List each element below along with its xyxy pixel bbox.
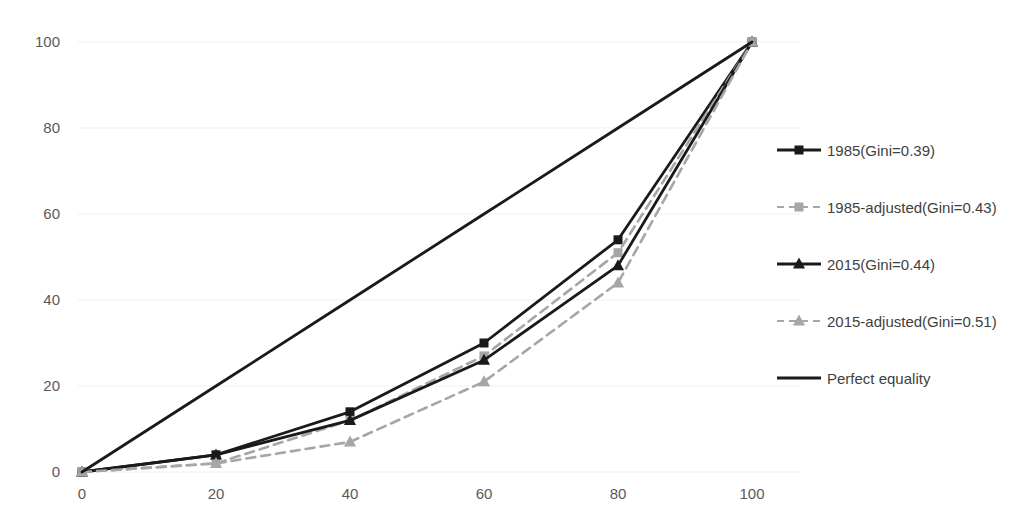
legend-label-2015-adjusted: 2015-adjusted(Gini=0.51) <box>827 313 997 330</box>
legend-label-2015: 2015(Gini=0.44) <box>827 256 935 273</box>
y-tick-80: 80 <box>8 119 60 136</box>
legend-item-2015[interactable]: 2015(Gini=0.44) <box>776 250 1026 278</box>
x-tick-40: 40 <box>320 485 380 502</box>
legend-label-1985-adjusted: 1985-adjusted(Gini=0.43) <box>827 199 997 216</box>
x-tick-80: 80 <box>588 485 648 502</box>
data-point-marker <box>614 248 623 257</box>
legend-item-perfect-equality[interactable]: Perfect equality <box>776 364 1026 392</box>
data-point-marker <box>480 339 489 348</box>
data-point-marker <box>614 235 623 244</box>
data-point-marker <box>612 276 624 287</box>
legend-label-perfect-equality: Perfect equality <box>827 370 930 387</box>
legend-item-2015-adjusted[interactable]: 2015-adjusted(Gini=0.51) <box>776 307 1026 335</box>
legend-item-1985-adjusted[interactable]: 1985-adjusted(Gini=0.43) <box>776 193 1026 221</box>
x-tick-20: 20 <box>186 485 246 502</box>
x-tick-100: 100 <box>722 485 782 502</box>
gridlines <box>78 42 800 472</box>
x-tick-60: 60 <box>454 485 514 502</box>
y-tick-0: 0 <box>8 463 60 480</box>
chart-legend: 1985(Gini=0.39) 1985-adjusted(Gini=0.43)… <box>776 136 1026 421</box>
x-tick-0: 0 <box>52 485 112 502</box>
legend-swatch-2015 <box>776 254 822 274</box>
y-tick-20: 20 <box>8 377 60 394</box>
legend-item-1985[interactable]: 1985(Gini=0.39) <box>776 136 1026 164</box>
legend-swatch-2015-adjusted <box>776 311 822 331</box>
series-line <box>82 42 752 472</box>
series-4 <box>82 42 752 472</box>
y-tick-40: 40 <box>8 291 60 308</box>
lorenz-curve-chart: 100 80 60 40 20 0 0 20 40 60 80 100 1985… <box>0 0 1031 522</box>
series-layer <box>76 36 758 477</box>
legend-swatch-1985 <box>776 140 822 160</box>
legend-label-1985: 1985(Gini=0.39) <box>827 142 935 159</box>
legend-swatch-1985-adjusted <box>776 197 822 217</box>
y-tick-100: 100 <box>8 33 60 50</box>
y-tick-60: 60 <box>8 205 60 222</box>
legend-swatch-perfect-equality <box>776 368 822 388</box>
